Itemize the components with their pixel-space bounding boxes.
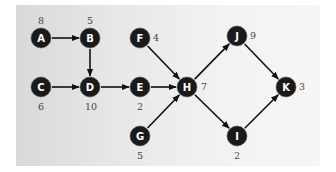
node-j: J9	[227, 26, 256, 46]
node-weight: 7	[201, 81, 207, 92]
node-weight: 6	[38, 101, 44, 112]
node-label: F	[137, 33, 144, 44]
edge-f-to-h	[148, 46, 180, 79]
node-label: A	[37, 33, 45, 44]
node-label: H	[183, 82, 191, 93]
node-label: G	[136, 131, 144, 142]
node-g: G5	[130, 126, 150, 161]
edge-h-to-j	[195, 44, 230, 79]
node-weight: 10	[85, 101, 97, 112]
node-label: D	[86, 82, 94, 93]
node-weight: 3	[299, 81, 305, 92]
node-e: E2	[130, 77, 150, 112]
edge-g-to-h	[148, 95, 180, 128]
edge-i-to-k	[245, 95, 278, 128]
edge-j-to-k	[245, 44, 279, 79]
node-weight: 5	[137, 150, 143, 161]
node-i: I2	[227, 126, 247, 161]
node-a: A8	[31, 15, 51, 49]
node-weight: 2	[137, 101, 143, 112]
node-label: C	[37, 82, 44, 93]
node-d: D10	[80, 77, 100, 112]
node-weight: 8	[38, 15, 44, 26]
node-b: B5	[80, 15, 100, 49]
edge-h-to-i	[195, 95, 229, 129]
node-label: B	[86, 33, 94, 44]
node-label: I	[235, 131, 239, 142]
node-weight: 2	[234, 150, 240, 161]
node-f: F4	[130, 28, 159, 48]
node-label: E	[137, 82, 144, 93]
node-h: H7	[177, 77, 207, 97]
node-weight: 5	[87, 15, 93, 26]
node-c: C6	[31, 77, 51, 112]
node-k: K3	[276, 77, 305, 97]
node-label: K	[282, 82, 291, 93]
node-weight: 4	[153, 32, 159, 43]
node-label: J	[234, 31, 239, 42]
network-graph: A8B5C6D10E2F4G5H7J9I2K3	[0, 0, 336, 172]
node-weight: 9	[250, 30, 256, 41]
